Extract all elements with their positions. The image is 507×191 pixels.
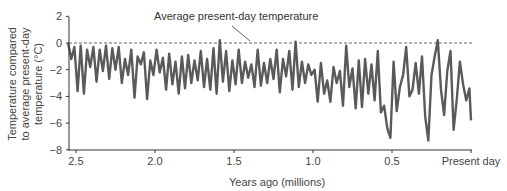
y-tick-label: −6 — [49, 117, 62, 129]
y-tick-label: 0 — [56, 37, 62, 49]
x-axis-ticks: 2.52.01.51.00.5Present day — [68, 150, 500, 167]
y-tick-label: −8 — [49, 144, 62, 156]
temperature-series-line — [68, 40, 471, 140]
y-tick-label: −2 — [49, 64, 62, 76]
x-tick-label: 2.5 — [68, 155, 83, 167]
x-tick-label: 1.0 — [305, 155, 320, 167]
annotation-leader-line — [232, 26, 250, 41]
x-axis-title: Years ago (millions) — [229, 176, 325, 188]
temperature-chart: Temperature compared to average present-… — [0, 0, 507, 191]
y-axis-ticks: 20−2−4−6−8 — [49, 10, 69, 156]
x-tick-label: 2.0 — [147, 155, 162, 167]
y-axis-title-line-1: Temperature compared — [6, 27, 18, 141]
y-axis-title-line-3: temperature (°C) — [32, 43, 44, 125]
x-tick-label: 1.5 — [226, 155, 241, 167]
y-axis-title: Temperature compared to average present-… — [6, 27, 44, 141]
y-tick-label: −4 — [49, 90, 62, 102]
reference-line-annotation: Average present-day temperature — [154, 10, 318, 22]
y-axis-title-line-2: to average present-day — [19, 27, 31, 141]
y-tick-label: 2 — [56, 10, 62, 22]
x-tick-label: 0.5 — [384, 155, 399, 167]
x-tick-label: Present day — [442, 155, 501, 167]
